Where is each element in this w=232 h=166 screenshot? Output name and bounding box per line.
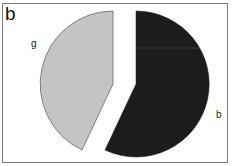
slice-label-g: g [31, 38, 37, 49]
slice-label-b: b [216, 109, 222, 120]
pie-slice-b [105, 11, 209, 157]
pie-chart: g b [0, 0, 232, 166]
pie-slice-g [40, 11, 113, 150]
